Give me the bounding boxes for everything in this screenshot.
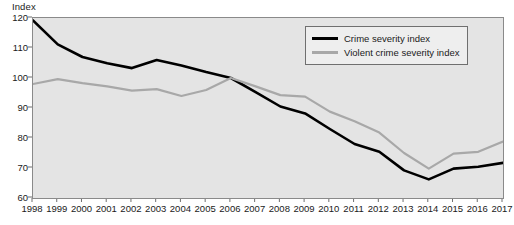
x-axis-tick-label: 2002	[120, 203, 141, 214]
x-axis-tick-label: 2008	[269, 203, 290, 214]
x-axis-tick-label: 2005	[195, 203, 216, 214]
x-axis-tick-label: 2001	[96, 203, 117, 214]
x-axis-tick-label: 2013	[392, 203, 413, 214]
chart-legend: Crime severity indexViolent crime severi…	[305, 26, 468, 65]
y-axis-tick-label: 80	[17, 132, 28, 143]
x-axis-tick-label: 2003	[145, 203, 166, 214]
x-axis-tick-label: 2010	[318, 203, 339, 214]
y-axis-tick-label: 120	[12, 12, 28, 23]
x-axis-tick-label: 2006	[219, 203, 240, 214]
legend-item-label: Crime severity index	[344, 33, 430, 44]
x-axis-tick-label: 2012	[368, 203, 389, 214]
x-axis-tick-label: 2007	[244, 203, 265, 214]
legend-item-label: Violent crime severity index	[344, 47, 459, 58]
y-axis-tick-label: 100	[12, 72, 28, 83]
x-axis-tick-label: 2000	[71, 203, 92, 214]
x-axis-tick-label: 1999	[46, 203, 67, 214]
x-axis-tick-label: 2014	[417, 203, 438, 214]
x-axis-tick-label: 2004	[170, 203, 191, 214]
x-axis-tick-label: 1998	[21, 203, 42, 214]
legend-line-swatch	[312, 37, 338, 40]
series-line	[33, 78, 503, 169]
y-axis-tick-labels: 12011010090807060	[0, 0, 28, 225]
y-axis-tick-label: 70	[17, 162, 28, 173]
x-axis-tick-label: 2017	[491, 203, 512, 214]
legend-item[interactable]: Violent crime severity index	[312, 45, 459, 59]
y-axis-tick-label: 60	[17, 192, 28, 203]
x-axis-tick-label: 2009	[294, 203, 315, 214]
y-axis-tick-label: 90	[17, 102, 28, 113]
x-axis-tick-label: 2011	[343, 203, 363, 214]
x-axis-tick-label: 2016	[467, 203, 488, 214]
y-axis-tick-label: 110	[13, 42, 28, 53]
legend-line-swatch	[312, 51, 338, 54]
legend-item[interactable]: Crime severity index	[312, 31, 459, 45]
crime-severity-index-line-chart: Index 12011010090807060 1998199920002001…	[0, 0, 514, 225]
x-axis-tick-label: 2015	[442, 203, 463, 214]
